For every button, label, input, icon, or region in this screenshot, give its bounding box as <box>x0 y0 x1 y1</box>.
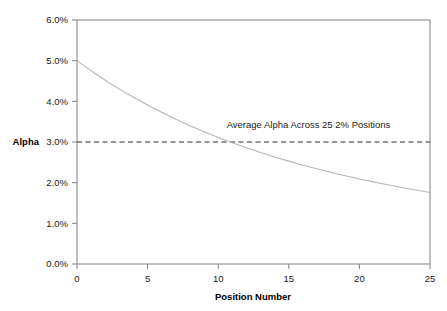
y-tick-label: 6.0% <box>46 14 68 25</box>
chart-canvas: 0.0% 1.0% 2.0% 3.0% 4.0% 5.0% 6.0% Alpha… <box>0 0 447 311</box>
y-tick-label: 5.0% <box>46 55 68 66</box>
x-axis-ticks <box>77 264 430 269</box>
x-tick-label: 15 <box>284 273 295 284</box>
x-tick-label: 5 <box>145 273 150 284</box>
x-axis-tick-labels: 0 5 10 15 20 25 <box>74 273 435 284</box>
x-tick-label: 20 <box>354 273 365 284</box>
y-axis-tick-labels: 0.0% 1.0% 2.0% 3.0% 4.0% 5.0% 6.0% <box>46 14 68 269</box>
y-tick-label: 4.0% <box>46 96 68 107</box>
average-alpha-annotation: Average Alpha Across 25 2% Positions <box>227 119 391 130</box>
x-axis-title: Position Number <box>215 291 291 302</box>
y-axis-ticks <box>72 20 77 264</box>
x-tick-label: 25 <box>425 273 436 284</box>
y-tick-label: 3.0% <box>46 136 68 147</box>
x-tick-label: 10 <box>213 273 224 284</box>
y-tick-label: 2.0% <box>46 177 68 188</box>
y-axis-series-label: Alpha <box>13 136 40 147</box>
alpha-decay-chart: 0.0% 1.0% 2.0% 3.0% 4.0% 5.0% 6.0% Alpha… <box>0 0 447 311</box>
y-tick-label: 0.0% <box>46 258 68 269</box>
x-tick-label: 0 <box>74 273 79 284</box>
y-tick-label: 1.0% <box>46 218 68 229</box>
